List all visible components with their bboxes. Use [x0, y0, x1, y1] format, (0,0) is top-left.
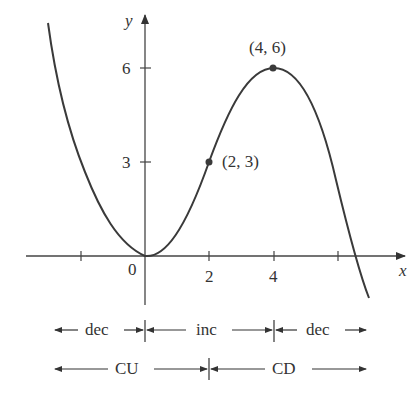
- y-axis-label: y: [125, 12, 133, 29]
- local-max-marker: [270, 65, 277, 72]
- x-tick-label-2: 2: [205, 268, 214, 285]
- dec-label-right: dec: [306, 321, 330, 338]
- local-max-label: (4, 6): [249, 39, 286, 56]
- dec-label-left: dec: [85, 321, 109, 338]
- x-tick-label-0: 0: [128, 261, 137, 278]
- y-tick-label-3: 3: [122, 154, 131, 171]
- cu-label: CU: [115, 360, 139, 377]
- x-axis-label: x: [399, 262, 407, 279]
- cd-label: CD: [272, 360, 296, 377]
- x-tick-label-4: 4: [269, 268, 278, 285]
- inflection-point-label: (2, 3): [222, 153, 259, 170]
- y-tick-label-6: 6: [122, 60, 131, 77]
- inflection-point-marker: [206, 159, 213, 166]
- inc-label: inc: [196, 321, 217, 338]
- concavity-arrows: [55, 358, 366, 380]
